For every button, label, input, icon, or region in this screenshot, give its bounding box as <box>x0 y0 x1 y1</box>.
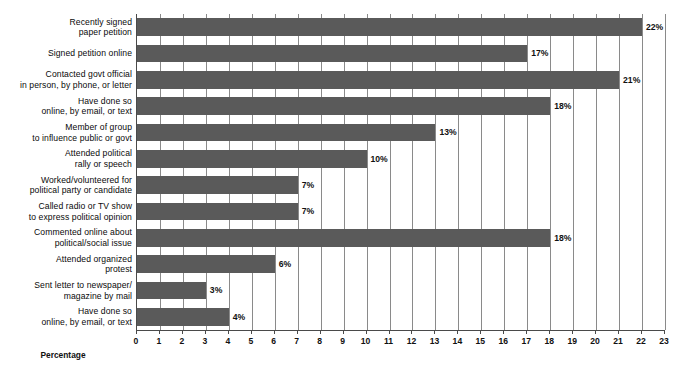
bar <box>137 150 367 167</box>
bar <box>137 176 298 193</box>
x-axis-tick-label: 0 <box>134 336 139 346</box>
gridline <box>665 14 666 330</box>
bar-value-label: 3% <box>206 285 222 295</box>
x-axis-tick <box>366 330 367 334</box>
x-axis-tick <box>136 330 137 334</box>
x-axis-tick <box>389 330 390 334</box>
bar-value-label: 6% <box>275 259 291 269</box>
x-axis-tick <box>618 330 619 334</box>
bar-value-label: 18% <box>550 101 571 111</box>
bar-value-label: 17% <box>527 48 548 58</box>
x-axis-tick <box>205 330 206 334</box>
x-axis-tick <box>641 330 642 334</box>
bar-row: 18% <box>137 97 665 114</box>
x-axis-tick-label: 22 <box>636 336 646 346</box>
bar-row: 4% <box>137 308 665 325</box>
category-label: Commented online about political/social … <box>0 227 132 248</box>
bar-value-label: 7% <box>298 180 314 190</box>
category-label: Have done so online, by email, or text <box>0 96 132 117</box>
x-axis-tick-label: 1 <box>157 336 162 346</box>
x-axis-tick <box>572 330 573 334</box>
x-axis-tick <box>343 330 344 334</box>
bar <box>137 229 550 246</box>
x-axis-tick <box>480 330 481 334</box>
x-axis-tick-label: 2 <box>180 336 185 346</box>
bar <box>137 308 229 325</box>
x-axis-tick <box>274 330 275 334</box>
x-axis-tick-label: 5 <box>248 336 253 346</box>
x-axis-tick <box>664 330 665 334</box>
bar-value-label: 18% <box>550 233 571 243</box>
bar-row: 7% <box>137 203 665 220</box>
category-label: Attended political rally or speech <box>0 148 132 169</box>
bar <box>137 18 642 35</box>
x-axis-tick <box>434 330 435 334</box>
x-axis-tick-label: 11 <box>384 336 393 346</box>
bar-value-label: 21% <box>619 75 640 85</box>
bar <box>137 203 298 220</box>
bar <box>137 124 435 141</box>
x-axis-tick-label: 20 <box>590 336 600 346</box>
x-axis-title-text: Percentage <box>40 350 85 360</box>
x-axis-tick-label: 9 <box>340 336 345 346</box>
x-axis-tick-label: 21 <box>613 336 623 346</box>
x-axis-tick <box>228 330 229 334</box>
bar-row: 6% <box>137 255 665 272</box>
category-label: Sent letter to newspaper/ magazine by ma… <box>0 280 132 301</box>
x-axis-tick <box>297 330 298 334</box>
category-label: Member of group to influence public or g… <box>0 122 132 143</box>
x-axis-tick-label: 10 <box>361 336 371 346</box>
bar-row: 13% <box>137 124 665 141</box>
x-axis-tick <box>503 330 504 334</box>
bar-chart: Recently signed paper petitionSigned pet… <box>0 0 674 372</box>
x-axis-tick-label: 3 <box>202 336 207 346</box>
bar-value-label: 10% <box>367 154 388 164</box>
bar-row: 21% <box>137 71 665 88</box>
bar-value-label: 13% <box>435 127 456 137</box>
category-label: Contacted govt official in person, by ph… <box>0 69 132 90</box>
category-label: Have done so online, by email, or text <box>0 306 132 327</box>
bar <box>137 97 550 114</box>
x-axis-tick <box>457 330 458 334</box>
x-axis-line <box>136 330 664 331</box>
x-axis-tick-label: 7 <box>294 336 299 346</box>
x-axis-tick <box>595 330 596 334</box>
x-axis-tick <box>251 330 252 334</box>
category-label: Worked/volunteered for political party o… <box>0 175 132 196</box>
x-axis-tick-label: 4 <box>225 336 230 346</box>
x-axis-tick <box>526 330 527 334</box>
category-label: Recently signed paper petition <box>0 17 132 38</box>
bar-row: 18% <box>137 229 665 246</box>
bar-value-label: 22% <box>642 22 663 32</box>
bar-value-label: 7% <box>298 206 314 216</box>
x-axis-tick-label: 15 <box>476 336 486 346</box>
category-label: Called radio or TV show to express polit… <box>0 201 132 222</box>
x-axis-tick-label: 8 <box>317 336 322 346</box>
x-axis-tick-label: 16 <box>499 336 509 346</box>
x-axis-title: Percentage <box>0 350 674 360</box>
x-axis-tick-label: 12 <box>407 336 417 346</box>
x-axis-tick-label: 14 <box>453 336 463 346</box>
bar-row: 22% <box>137 18 665 35</box>
category-label: Attended organized protest <box>0 254 132 275</box>
x-axis-tick-label: 6 <box>271 336 276 346</box>
x-axis-tick <box>320 330 321 334</box>
category-label: Signed petition online <box>0 48 132 58</box>
x-axis-tick-label: 23 <box>659 336 669 346</box>
bar <box>137 282 206 299</box>
x-axis-tick-label: 17 <box>521 336 531 346</box>
x-axis-tick <box>182 330 183 334</box>
x-axis-tick <box>159 330 160 334</box>
bar <box>137 71 619 88</box>
bar-row: 7% <box>137 176 665 193</box>
x-axis-tick-label: 19 <box>567 336 577 346</box>
x-axis-tick-label: 18 <box>544 336 554 346</box>
x-axis-tick-label: 13 <box>430 336 440 346</box>
x-axis-tick <box>549 330 550 334</box>
bar-row: 10% <box>137 150 665 167</box>
bar-row: 17% <box>137 45 665 62</box>
bar <box>137 255 275 272</box>
category-label-column: Recently signed paper petitionSigned pet… <box>0 14 132 330</box>
x-axis-tick <box>411 330 412 334</box>
bar-value-label: 4% <box>229 312 245 322</box>
